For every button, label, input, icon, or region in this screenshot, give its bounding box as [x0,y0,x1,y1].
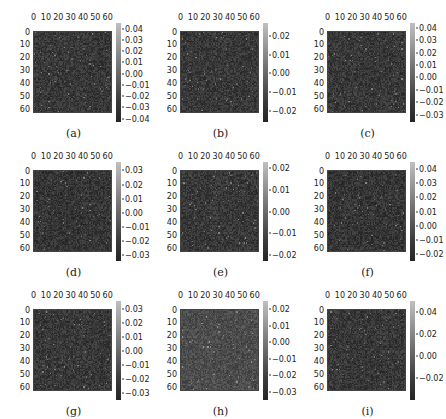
x-tick-label: 40 [78,13,88,22]
y-tick-label: 0 [319,27,324,36]
colorbar-tick-label: 0.00 [269,338,290,347]
colorbar-tick-label: 0.02 [416,330,437,339]
colorbar-tick-label: 0.01 [122,333,143,342]
x-tick-label: 30 [360,152,370,161]
x-tick-label: 40 [372,291,382,300]
y-axis-ticks: 0102030405060 [147,309,178,391]
x-tick-label: 0 [31,13,36,22]
x-tick-label: 20 [53,291,63,300]
colorbar-tick-label: 0.02 [122,319,143,328]
y-tick-label: 60 [20,104,30,113]
y-tick-label: 30 [167,344,177,353]
heatmap-panel: 010203040506001020304050600.040.030.020.… [294,0,441,139]
x-tick-label: 50 [237,13,247,22]
y-tick-label: 30 [314,205,324,214]
y-tick-label: 30 [314,344,324,353]
colorbar-tick-label: 0.01 [416,207,437,216]
heatmap-image [33,309,112,391]
x-tick-label: 0 [178,291,183,300]
y-tick-label: 40 [167,78,177,87]
colorbar-tick-label: 0.01 [269,185,290,194]
colorbar [410,301,415,400]
y-tick-label: 30 [167,66,177,75]
colorbar-tick-label: −0.01 [122,223,150,232]
x-tick-label: 60 [250,291,260,300]
colorbar-tick-label: 0.04 [122,24,143,33]
y-tick-label: 50 [167,91,177,100]
x-tick-label: 50 [384,291,394,300]
colorbar-tick-label: 0.01 [416,61,437,70]
colorbar-tick-label: 0.01 [122,58,143,67]
y-tick-label: 20 [20,331,30,340]
x-tick-label: 20 [347,13,357,22]
colorbar-tick-label: −0.02 [269,250,297,259]
y-tick-label: 0 [319,305,324,314]
colorbar-tick-label: −0.02 [269,106,297,115]
x-tick-label: 10 [41,13,51,22]
x-tick-label: 20 [200,13,210,22]
heatmap-image [327,31,406,113]
colorbar-tick-label: 0.00 [269,69,290,78]
colorbar-tick-label: −0.03 [122,103,150,112]
colorbar [263,23,268,122]
y-tick-label: 50 [314,91,324,100]
colorbar-tick-label: 0.03 [122,305,143,314]
colorbar [263,301,268,400]
x-tick-label: 60 [250,152,260,161]
y-tick-label: 60 [20,382,30,391]
y-axis-ticks: 0102030405060 [294,309,325,391]
x-tick-label: 0 [31,152,36,161]
x-tick-label: 40 [78,291,88,300]
x-tick-label: 20 [200,291,210,300]
y-tick-label: 40 [314,356,324,365]
x-tick-label: 30 [213,13,223,22]
y-tick-label: 30 [20,344,30,353]
x-axis-ticks: 0102030405060 [180,152,260,162]
y-tick-label: 10 [167,318,177,327]
x-tick-label: 40 [372,152,382,161]
y-tick-label: 60 [167,104,177,113]
colorbar-tick-label: 0.03 [122,35,143,44]
y-tick-label: 50 [167,230,177,239]
y-tick-label: 10 [314,40,324,49]
x-tick-label: 20 [347,152,357,161]
y-tick-label: 10 [20,179,30,188]
x-tick-label: 0 [178,152,183,161]
colorbar [116,162,121,261]
y-tick-label: 0 [25,27,30,36]
x-tick-label: 10 [188,291,198,300]
colorbar-tick-label: −0.03 [122,389,150,398]
colorbar-tick-label: 0.02 [122,47,143,56]
heatmap-image [180,309,259,391]
y-tick-label: 0 [25,166,30,175]
y-tick-label: 50 [20,91,30,100]
x-tick-label: 0 [325,291,330,300]
heatmap-image [33,170,112,252]
x-tick-label: 40 [78,152,88,161]
y-tick-label: 40 [314,217,324,226]
x-axis-ticks: 0102030405060 [180,291,260,301]
heatmap-panel: 010203040506001020304050600.020.010.00−0… [147,0,294,139]
y-axis-ticks: 0102030405060 [294,170,325,252]
colorbar-tick-label: 0.02 [416,48,437,57]
colorbar-tick-label: 0.00 [269,207,290,216]
heatmap-panel: 010203040506001020304050600.020.010.00−0… [147,139,294,278]
x-tick-label: 30 [66,152,76,161]
x-tick-label: 0 [325,152,330,161]
colorbar-tick-label: 0.01 [269,50,290,59]
y-tick-label: 50 [314,369,324,378]
heatmap-panel: 010203040506001020304050600.030.020.010.… [0,139,147,278]
y-tick-label: 10 [20,40,30,49]
colorbar-tick-label: 0.02 [122,180,143,189]
y-tick-label: 10 [314,179,324,188]
colorbar-tick-label: 0.02 [269,305,290,314]
colorbar [116,301,121,400]
colorbar-tick-label: 0.00 [122,208,143,217]
y-tick-label: 60 [314,243,324,252]
x-tick-label: 40 [225,291,235,300]
x-tick-label: 40 [225,13,235,22]
x-tick-label: 10 [335,13,345,22]
y-tick-label: 10 [167,40,177,49]
x-tick-label: 10 [335,152,345,161]
colorbar-tick-label: 0.00 [416,352,437,361]
